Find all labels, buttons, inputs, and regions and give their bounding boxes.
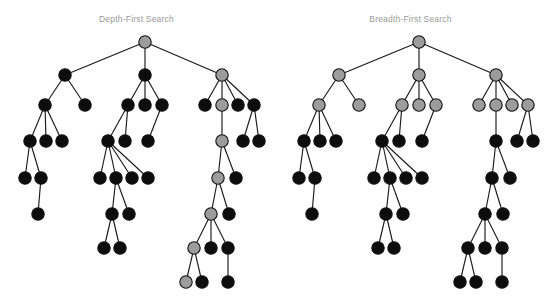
tree-node-unvisited[interactable] [293, 172, 305, 184]
tree-node-unvisited[interactable] [368, 172, 380, 184]
tree-node-unvisited[interactable] [511, 135, 523, 147]
tree-node-visited[interactable] [180, 276, 192, 288]
tree-node-visited[interactable] [216, 69, 228, 81]
tree-node-unvisited[interactable] [416, 172, 428, 184]
tree-node-unvisited[interactable] [462, 242, 474, 254]
tree-node-unvisited[interactable] [94, 172, 106, 184]
tree-node-unvisited[interactable] [39, 99, 51, 111]
tree-node-unvisited[interactable] [306, 208, 318, 220]
tree-node-unvisited[interactable] [139, 99, 151, 111]
tree-node-unvisited[interactable] [504, 172, 516, 184]
tree-node-unvisited[interactable] [40, 135, 52, 147]
tree-edge [419, 42, 496, 75]
figure-canvas: Depth-First Search Breadth-First Search [0, 0, 547, 300]
tree-node-unvisited[interactable] [156, 99, 168, 111]
tree-node-unvisited[interactable] [110, 172, 122, 184]
tree-node-unvisited[interactable] [98, 242, 110, 254]
tree-node-unvisited[interactable] [454, 276, 466, 288]
tree-edge [339, 42, 419, 75]
tree-node-visited[interactable] [430, 99, 442, 111]
tree-node-unvisited[interactable] [79, 99, 91, 111]
tree-node-unvisited[interactable] [196, 276, 208, 288]
tree-node-visited[interactable] [313, 99, 325, 111]
tree-node-unvisited[interactable] [24, 135, 36, 147]
tree-node-unvisited[interactable] [384, 172, 396, 184]
tree-node-unvisited[interactable] [199, 99, 211, 111]
tree-node-unvisited[interactable] [496, 242, 508, 254]
tree-node-unvisited[interactable] [248, 99, 260, 111]
tree-node-visited[interactable] [413, 99, 425, 111]
tree-graph-dfs [0, 0, 273, 300]
tree-node-visited[interactable] [188, 242, 200, 254]
tree-node-unvisited[interactable] [314, 135, 326, 147]
tree-node-unvisited[interactable] [102, 135, 114, 147]
tree-node-visited[interactable] [413, 69, 425, 81]
tree-node-unvisited[interactable] [479, 242, 491, 254]
tree-node-unvisited[interactable] [123, 208, 135, 220]
tree-node-visited[interactable] [216, 135, 228, 147]
tree-node-unvisited[interactable] [119, 135, 131, 147]
tree-node-unvisited[interactable] [253, 135, 265, 147]
tree-node-unvisited[interactable] [139, 69, 151, 81]
tree-node-unvisited[interactable] [232, 99, 244, 111]
tree-node-visited[interactable] [333, 69, 345, 81]
tree-node-unvisited[interactable] [122, 99, 134, 111]
panel-breadth-first-search: Breadth-First Search [274, 0, 547, 300]
tree-node-unvisited[interactable] [222, 242, 234, 254]
tree-node-unvisited[interactable] [106, 208, 118, 220]
tree-edge [65, 42, 145, 75]
tree-node-unvisited[interactable] [126, 172, 138, 184]
tree-node-unvisited[interactable] [470, 276, 482, 288]
tree-node-unvisited[interactable] [388, 242, 400, 254]
tree-node-visited[interactable] [473, 99, 485, 111]
tree-node-unvisited[interactable] [32, 208, 44, 220]
tree-node-visited[interactable] [396, 99, 408, 111]
tree-node-visited[interactable] [490, 99, 502, 111]
tree-node-unvisited[interactable] [527, 135, 539, 147]
tree-node-unvisited[interactable] [19, 172, 31, 184]
tree-node-unvisited[interactable] [56, 135, 68, 147]
tree-node-unvisited[interactable] [490, 135, 502, 147]
tree-node-unvisited[interactable] [416, 135, 428, 147]
tree-node-unvisited[interactable] [237, 135, 249, 147]
tree-node-visited[interactable] [212, 172, 224, 184]
tree-node-visited[interactable] [216, 99, 228, 111]
tree-node-unvisited[interactable] [230, 172, 242, 184]
tree-node-unvisited[interactable] [380, 208, 392, 220]
tree-node-visited[interactable] [139, 36, 151, 48]
tree-node-unvisited[interactable] [298, 135, 310, 147]
tree-node-unvisited[interactable] [496, 276, 508, 288]
panel-depth-first-search: Depth-First Search [0, 0, 273, 300]
tree-node-visited[interactable] [205, 208, 217, 220]
tree-graph-bfs [274, 0, 547, 300]
tree-node-visited[interactable] [506, 99, 518, 111]
tree-node-visited[interactable] [413, 36, 425, 48]
tree-node-unvisited[interactable] [309, 172, 321, 184]
tree-node-unvisited[interactable] [223, 208, 235, 220]
tree-node-unvisited[interactable] [376, 135, 388, 147]
tree-node-unvisited[interactable] [205, 242, 217, 254]
tree-node-unvisited[interactable] [372, 242, 384, 254]
tree-node-unvisited[interactable] [497, 208, 509, 220]
tree-node-unvisited[interactable] [486, 172, 498, 184]
tree-node-unvisited[interactable] [400, 172, 412, 184]
tree-node-visited[interactable] [490, 69, 502, 81]
tree-node-unvisited[interactable] [222, 276, 234, 288]
tree-node-unvisited[interactable] [397, 208, 409, 220]
tree-node-unvisited[interactable] [35, 172, 47, 184]
tree-node-unvisited[interactable] [142, 172, 154, 184]
tree-node-unvisited[interactable] [393, 135, 405, 147]
tree-node-unvisited[interactable] [59, 69, 71, 81]
tree-node-unvisited[interactable] [330, 135, 342, 147]
tree-node-visited[interactable] [353, 99, 365, 111]
tree-node-visited[interactable] [522, 99, 534, 111]
tree-node-unvisited[interactable] [142, 135, 154, 147]
tree-node-unvisited[interactable] [114, 242, 126, 254]
tree-edge [145, 42, 222, 75]
tree-node-unvisited[interactable] [479, 208, 491, 220]
